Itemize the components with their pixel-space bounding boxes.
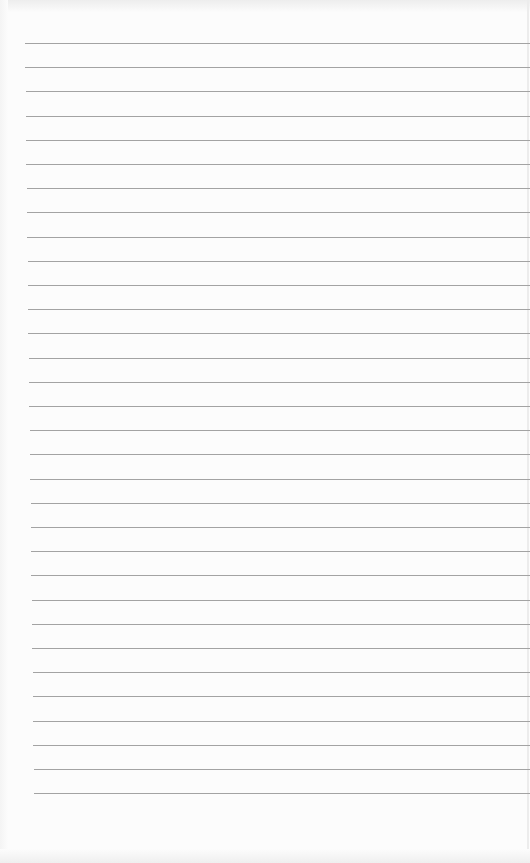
rule-line (31, 527, 530, 528)
rule-line (26, 164, 530, 165)
rule-line (33, 696, 530, 697)
rule-line (29, 382, 530, 383)
rule-line (28, 309, 530, 310)
rule-line (28, 333, 530, 334)
scan-top-shadow (0, 0, 530, 12)
rule-line (30, 454, 530, 455)
rule-line (32, 648, 530, 649)
rule-line (26, 140, 530, 141)
rule-line (33, 672, 530, 673)
rule-line (31, 503, 530, 504)
rule-line (26, 91, 530, 92)
rule-line (29, 406, 530, 407)
rule-line (29, 358, 530, 359)
rule-line (34, 793, 530, 794)
rule-line (25, 67, 530, 68)
rule-line (33, 721, 530, 722)
rule-line (33, 745, 530, 746)
scan-left-shadow (0, 0, 8, 863)
rule-line (27, 212, 530, 213)
rule-line (28, 285, 530, 286)
rule-line (32, 600, 530, 601)
rule-line (30, 479, 530, 480)
scan-bottom-shadow (0, 849, 530, 863)
rule-line (27, 237, 530, 238)
rule-line (31, 551, 530, 552)
paper-right-edge (527, 0, 529, 863)
rule-line (25, 43, 530, 44)
rule-line (32, 624, 530, 625)
rule-line (26, 116, 530, 117)
rule-line (28, 261, 530, 262)
rule-line (34, 769, 530, 770)
rule-line (27, 188, 530, 189)
rule-line (31, 575, 530, 576)
lined-paper-page (0, 0, 530, 863)
rule-line (30, 430, 530, 431)
